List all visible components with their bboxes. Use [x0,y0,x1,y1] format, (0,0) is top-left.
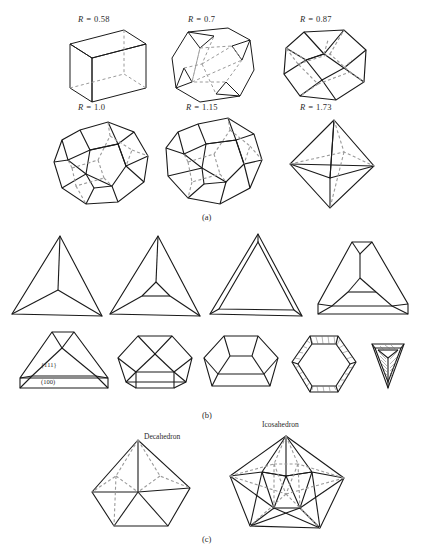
shape-octahedron [282,116,382,212]
shape-small-hatched-tetrahedron [364,336,412,392]
shape-truncated-octahedron [46,116,156,210]
figure-polyhedral-morphologies: R = 0.58 R = 0.7 R = 0.87 [0,0,422,553]
shape-cuboctahedron [278,24,374,106]
shape-icosahedron [222,432,352,536]
shape-truncated-octahedron-2 [158,114,270,210]
ratio-label-cube: R = 0.58 [78,14,110,24]
face-label-octahedral: {111} [41,361,57,368]
shape-cube [62,26,154,104]
shape-truncated-tetrahedron [310,234,414,320]
ratio-label-truncated-cube: R = 0.7 [188,14,215,24]
icosahedron-title: Icosahedron [262,420,299,429]
face-label-cubic: (100) [41,378,55,385]
shape-tetrahedron [8,232,106,320]
panel-b-label: (b) [202,410,212,420]
shape-slightly-truncated-tetrahedron [106,232,204,320]
shape-decahedron [80,436,200,532]
panel-c-label: (c) [202,534,211,544]
shape-truncated-cube [166,24,262,106]
ratio-label-octahedron: R = 1.73 [300,102,332,112]
shape-truncated-tetrahedron-labeled [12,328,114,398]
ratio-label-truncated-octahedron: R = 1.0 [78,102,105,112]
ratio-label-cuboctahedron: R = 0.87 [300,14,332,24]
panel-a-label: (a) [202,212,211,222]
shape-pentagonal-truncated-form [200,332,282,396]
shape-more-truncated-tetrahedron [114,332,196,396]
ratio-label-truncated-octahedron-2: R = 1.15 [186,102,218,112]
shape-hexagonal-plate [288,332,360,400]
shape-tetrahedron-front-face [206,230,306,320]
